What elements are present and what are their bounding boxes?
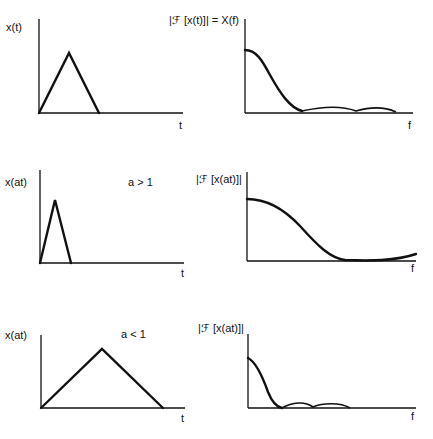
triangle-pulse [39, 53, 99, 113]
y-axis-label: x(at) [5, 329, 27, 341]
y-axis-label: |ℱ [x(at)]| [196, 173, 242, 185]
x-axis-label: t [181, 267, 184, 279]
spectrum-sidelobes [302, 107, 396, 112]
spectrum-main-lobe [245, 50, 302, 111]
y-axis-label: x(t) [6, 21, 22, 33]
x-axis-label: f [408, 119, 412, 131]
condition-label: a > 1 [128, 176, 153, 188]
y-axis-label: |ℱ [x(at)]| [198, 322, 244, 334]
time-scaling-diagram: x(t) t |ℱ [x(t)]| = X(f) f x(at) a > 1 t… [0, 0, 433, 439]
x-axis-label: t [179, 119, 182, 131]
plot-time-row3: x(at) a < 1 t [5, 328, 185, 424]
spectrum-sidelobes [282, 403, 350, 408]
spectrum-wide [247, 199, 416, 260]
condition-label: a < 1 [121, 328, 146, 340]
plot-freq-row2: |ℱ [x(at)]| f [196, 172, 416, 274]
triangle-pulse-compressed [40, 200, 71, 263]
triangle-pulse-stretched [41, 349, 163, 408]
x-axis-label: f [411, 410, 415, 422]
y-axis-label: x(at) [5, 176, 27, 188]
y-axis-label: |ℱ [x(t)]| = X(f) [169, 14, 239, 26]
x-axis-label: t [181, 412, 184, 424]
plot-freq-row3: |ℱ [x(at)]| f [198, 322, 416, 422]
plot-time-row2: x(at) a > 1 t [5, 170, 184, 279]
x-axis-label: f [411, 262, 415, 274]
plot-time-row1: x(t) t [6, 19, 183, 131]
plot-freq-row1: |ℱ [x(t)]| = X(f) f [169, 14, 413, 131]
spectrum-main-lobe-narrow [248, 358, 282, 408]
